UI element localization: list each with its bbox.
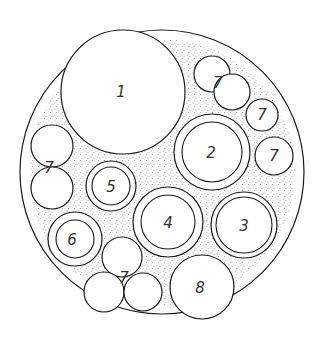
component-2: 2 — [174, 114, 250, 190]
label-7: 7 — [269, 147, 279, 165]
label-7: 7 — [44, 159, 54, 177]
label-2: 2 — [206, 144, 216, 162]
component-4: 4 — [133, 187, 203, 257]
component-3: 3 — [211, 192, 277, 258]
component-8: 8 — [170, 255, 234, 319]
label-5: 5 — [106, 178, 116, 196]
cable-cross-section-diagram: 7 7 7 7 1 2 3 4 5 6 — [0, 0, 317, 344]
label-7: 7 — [119, 269, 129, 287]
component-5: 5 — [86, 161, 136, 211]
label-6: 6 — [67, 231, 77, 249]
label-1: 1 — [116, 83, 126, 101]
label-7: 7 — [257, 106, 267, 124]
label-7: 7 — [213, 74, 223, 92]
component-6: 6 — [48, 212, 102, 266]
label-3: 3 — [239, 217, 249, 235]
label-4: 4 — [163, 214, 173, 232]
label-8: 8 — [195, 279, 205, 297]
component-7-single-upper: 7 — [246, 99, 278, 131]
component-7-single-right: 7 — [255, 137, 293, 175]
component-1: 1 — [61, 30, 185, 154]
